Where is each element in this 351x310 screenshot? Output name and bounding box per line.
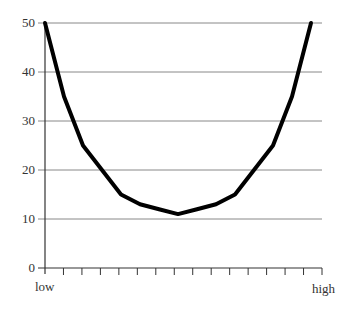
y-tick-label-50: 50 bbox=[5, 15, 35, 31]
y-tick-label-20: 20 bbox=[5, 162, 35, 178]
y-tick-label-10: 10 bbox=[5, 211, 35, 227]
x-label-high: high bbox=[312, 281, 335, 297]
gridlines bbox=[38, 23, 322, 268]
x-label-low: low bbox=[35, 279, 55, 295]
data-line bbox=[45, 23, 311, 214]
y-tick-label-40: 40 bbox=[5, 64, 35, 80]
y-tick-label-0: 0 bbox=[5, 260, 35, 276]
u-shaped-line-chart bbox=[0, 0, 351, 310]
y-tick-label-30: 30 bbox=[5, 113, 35, 129]
